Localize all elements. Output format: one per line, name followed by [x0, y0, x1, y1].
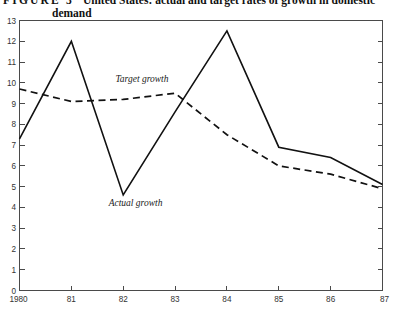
y-tick-label: 8	[11, 120, 16, 129]
y-tick-label: 3	[11, 224, 16, 233]
chart-annotations: Target growthActual growth	[108, 74, 169, 209]
x-tick-label: 1980	[9, 295, 28, 304]
figure-number-label: FIGURE 3	[3, 0, 74, 6]
y-tick-label: 10	[7, 79, 17, 88]
x-tick-label: 84	[222, 295, 232, 304]
chart-frame-border	[20, 21, 383, 291]
y-tick-label: 12	[7, 37, 17, 46]
figure-container: FIGURE 3United States: actual and target…	[0, 0, 399, 309]
y-tick-label: 7	[11, 141, 16, 150]
x-tick-label: 85	[274, 295, 284, 304]
y-tick-label: 2	[11, 245, 16, 254]
x-tick-label: 82	[119, 295, 129, 304]
y-tick-label: 13	[7, 17, 17, 26]
x-tick-label: 87	[380, 295, 390, 304]
y-tick-label: 9	[11, 100, 16, 109]
line-chart-svg: 012345678910111213 198081828384858687 Ta…	[0, 16, 399, 309]
y-tick-label: 5	[11, 183, 16, 192]
chart-plot-area: 012345678910111213 198081828384858687 Ta…	[0, 16, 399, 309]
series-line-target-growth	[20, 89, 383, 189]
annotation-actual-growth: Actual growth	[108, 198, 163, 208]
y-tick-label: 11	[8, 58, 17, 67]
y-tick-label: 4	[11, 203, 16, 212]
figure-title-line-1: FIGURE 3United States: actual and target…	[3, 0, 375, 7]
y-tick-label: 1	[11, 266, 16, 275]
annotation-target-growth: Target growth	[115, 74, 168, 84]
x-tick-label: 83	[171, 295, 181, 304]
x-tick-label: 86	[326, 295, 336, 304]
y-tick-label: 6	[11, 162, 16, 171]
figure-title-text-1: United States: actual and target rates o…	[83, 0, 375, 6]
chart-frame	[20, 21, 383, 291]
x-axis-ticks: 198081828384858687	[9, 286, 389, 304]
x-tick-label: 81	[67, 295, 77, 304]
chart-series	[20, 31, 383, 195]
